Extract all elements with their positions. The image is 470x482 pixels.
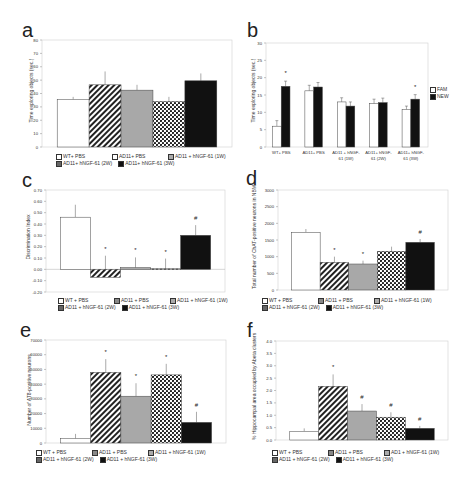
bar xyxy=(377,251,406,290)
svg-text:WT+ PBS: WT+ PBS xyxy=(272,150,291,155)
bar xyxy=(305,91,314,147)
bar xyxy=(320,262,349,290)
svg-text:4.0: 4.0 xyxy=(266,339,272,344)
bar xyxy=(292,232,321,290)
bar xyxy=(348,411,377,440)
svg-text:50: 50 xyxy=(33,78,38,83)
svg-text:-0.10: -0.10 xyxy=(32,278,42,283)
svg-text:0: 0 xyxy=(36,145,39,150)
plot-c: -0.20-0.100.000.100.200.300.400.500.600.… xyxy=(32,188,225,295)
svg-text:#: # xyxy=(418,416,422,422)
ylabel-d: Total number of ChAT-positive neurons in… xyxy=(251,182,257,292)
svg-text:70000: 70000 xyxy=(30,338,42,343)
bar xyxy=(60,217,90,269)
svg-text:1.0: 1.0 xyxy=(266,413,272,418)
bar xyxy=(370,104,379,147)
svg-text:0: 0 xyxy=(260,145,263,150)
svg-text:5: 5 xyxy=(260,127,263,132)
svg-text:*: * xyxy=(414,84,417,90)
legend-c: WT + PBS AD11 + PBS AD11 + hNGF-61 (1W) … xyxy=(58,297,234,311)
ylabel-e: Number of AT8-positive neurons xyxy=(26,340,32,440)
svg-text:AD11+ hNGF-: AD11+ hNGF- xyxy=(365,150,392,155)
svg-text:0.60: 0.60 xyxy=(34,199,43,204)
svg-text:0.5: 0.5 xyxy=(266,425,272,430)
bar xyxy=(337,102,346,147)
plot-b: 051015202530**WT+ PBSAD11+ PBSAD11 + hNG… xyxy=(257,41,428,161)
svg-text:*: * xyxy=(165,354,168,360)
svg-text:30: 30 xyxy=(257,41,262,46)
svg-text:#: # xyxy=(194,215,198,221)
svg-text:3.5: 3.5 xyxy=(266,351,272,356)
svg-text:AD11+ PBS: AD11+ PBS xyxy=(303,150,325,155)
svg-text:0.70: 0.70 xyxy=(34,188,43,193)
svg-text:20: 20 xyxy=(33,118,38,123)
bar xyxy=(402,110,411,147)
legend-a: WT+ PBS AD11+ PBS AD11 + hNGF-61 (1W) AD… xyxy=(56,153,232,167)
bar xyxy=(57,100,89,147)
svg-text:40000: 40000 xyxy=(30,382,42,387)
svg-text:*: * xyxy=(362,251,365,257)
bar xyxy=(185,81,217,147)
bar xyxy=(60,439,90,443)
bar xyxy=(319,386,348,440)
svg-text:0.40: 0.40 xyxy=(34,222,43,227)
bar xyxy=(411,99,420,147)
ylabel-a: Time exploring objects (sec.) xyxy=(28,43,34,138)
svg-text:*: * xyxy=(164,249,167,255)
bar xyxy=(151,269,181,270)
svg-text:0: 0 xyxy=(40,441,43,446)
svg-text:*: * xyxy=(105,349,108,355)
ylabel-f: % Hippocampal area occupied by Abeta clu… xyxy=(251,335,257,440)
svg-text:-0.20: -0.20 xyxy=(32,290,42,295)
svg-text:*: * xyxy=(104,246,107,252)
svg-text:61 (2W): 61 (2W) xyxy=(371,156,386,161)
svg-text:500: 500 xyxy=(267,271,275,276)
svg-text:10: 10 xyxy=(33,131,38,136)
ylabel-b: Time exploring objects (sec.) xyxy=(250,43,256,138)
bar xyxy=(272,126,281,147)
svg-text:20000: 20000 xyxy=(30,411,42,416)
bar xyxy=(376,417,405,440)
svg-text:*: * xyxy=(134,247,137,253)
bar xyxy=(290,431,319,440)
bar xyxy=(90,269,120,277)
svg-text:#: # xyxy=(195,402,199,408)
chart-a: 01020304050607080051015202530**WT+ PBSAD… xyxy=(0,0,470,482)
svg-text:*: * xyxy=(333,247,336,253)
svg-text:3.0: 3.0 xyxy=(266,363,272,368)
svg-text:60: 60 xyxy=(33,64,38,69)
svg-text:#: # xyxy=(418,229,422,235)
legend-b: FAM NEW xyxy=(430,86,455,100)
svg-text:50000: 50000 xyxy=(30,367,42,372)
plot-d: 050010001500200025003000**# xyxy=(265,188,448,293)
bar xyxy=(91,372,121,443)
svg-text:10000: 10000 xyxy=(30,426,42,431)
svg-text:2500: 2500 xyxy=(265,204,275,209)
svg-text:70: 70 xyxy=(33,51,38,56)
svg-text:*: * xyxy=(284,70,287,76)
bar xyxy=(346,106,355,147)
plot-f: 0.00.51.01.52.02.53.03.54.0*### xyxy=(266,339,448,443)
bar xyxy=(151,375,181,443)
svg-text:0.10: 0.10 xyxy=(34,256,43,261)
svg-text:#: # xyxy=(360,394,364,400)
svg-text:0.20: 0.20 xyxy=(34,244,43,249)
svg-text:1.5: 1.5 xyxy=(266,400,272,405)
ylabel-c: Discrimination Index xyxy=(25,192,31,282)
svg-text:61 (3W): 61 (3W) xyxy=(403,156,418,161)
bar xyxy=(89,85,121,147)
legend-d: WT + PBS AD11 + PBS AD11 + hNGF-61 (1W) … xyxy=(262,297,438,311)
svg-text:30000: 30000 xyxy=(30,396,42,401)
svg-text:*: * xyxy=(135,373,138,379)
bar xyxy=(405,428,434,440)
svg-text:20: 20 xyxy=(257,75,262,80)
bar xyxy=(121,396,151,443)
bar xyxy=(120,268,150,270)
svg-text:10: 10 xyxy=(257,110,262,115)
svg-text:2.5: 2.5 xyxy=(266,376,272,381)
bar xyxy=(281,86,290,147)
svg-text:40: 40 xyxy=(33,91,38,96)
svg-text:3000: 3000 xyxy=(265,188,275,193)
svg-text:0.30: 0.30 xyxy=(34,233,43,238)
svg-text:25: 25 xyxy=(257,58,262,63)
